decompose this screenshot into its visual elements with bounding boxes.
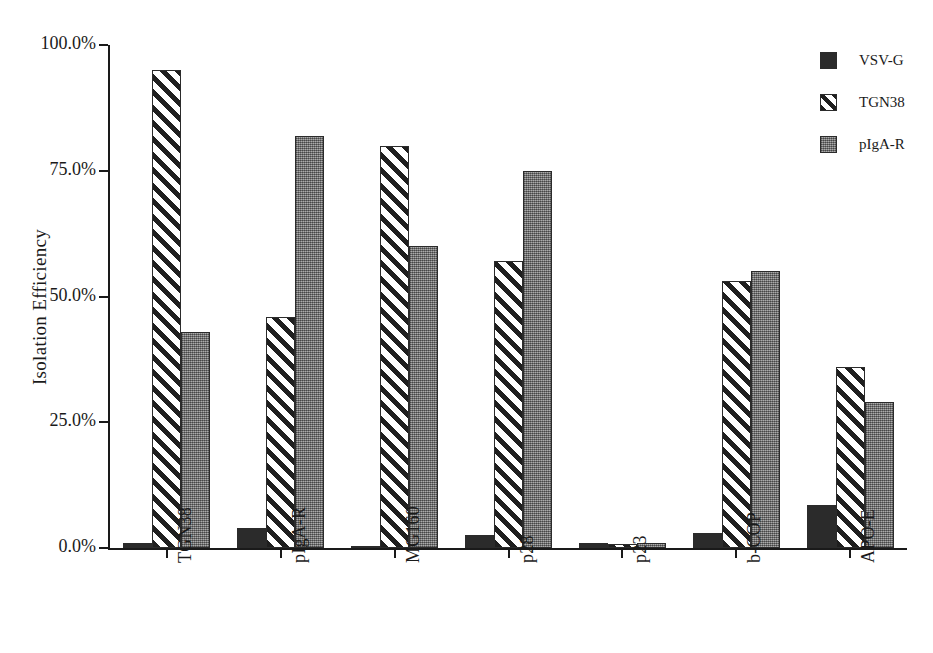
- y-axis-tick-mark: [99, 44, 108, 46]
- x-axis-tick-label: p28: [517, 535, 538, 563]
- legend-label: TGN38: [859, 94, 905, 111]
- bar-pigar[interactable]: [409, 246, 438, 548]
- x-axis-tick-mark: [166, 548, 168, 558]
- bar-vsvg[interactable]: [237, 528, 266, 548]
- bar-chart: Isolation Efficiency 100.0%75.0%50.0%25.…: [0, 0, 933, 653]
- y-axis: 100.0%75.0%50.0%25.0%0.0%: [0, 0, 108, 653]
- y-axis-tick-label: 0.0%: [59, 536, 97, 557]
- bar-group: [224, 45, 338, 548]
- x-axis-tick-label: TGN38: [175, 507, 196, 563]
- x-axis-tick-label: APO-E: [858, 509, 879, 563]
- legend-swatch-pigar-icon: [820, 136, 837, 153]
- legend-item[interactable]: TGN38: [820, 87, 933, 117]
- x-axis-tick-mark: [280, 548, 282, 558]
- legend-label: pIgA-R: [859, 136, 905, 153]
- legend-item[interactable]: pIgA-R: [820, 129, 933, 159]
- x-axis-tick-label: MG160: [403, 506, 424, 563]
- bar-vsvg[interactable]: [351, 546, 380, 549]
- bar-vsvg[interactable]: [465, 535, 494, 548]
- x-axis-tick-label: b-COP: [744, 512, 765, 563]
- x-axis-tick-mark: [508, 548, 510, 558]
- y-axis-tick-mark: [99, 170, 108, 172]
- legend-label: VSV-G: [859, 52, 903, 69]
- bar-vsvg[interactable]: [693, 533, 722, 548]
- legend-swatch-tgn38-icon: [820, 94, 837, 111]
- bar-group: [338, 45, 452, 548]
- bar-group: [565, 45, 679, 548]
- x-axis-tick-mark: [394, 548, 396, 558]
- y-axis-tick-mark: [99, 296, 108, 298]
- bar-pigar[interactable]: [523, 171, 552, 548]
- y-axis-tick-label: 75.0%: [50, 159, 97, 180]
- bar-group: [452, 45, 566, 548]
- x-axis-tick-mark: [621, 548, 623, 558]
- plot-area: TGN38pIgA-RMG160p28p23b-COPAPO-E: [108, 45, 907, 550]
- bar-group: [110, 45, 224, 548]
- x-axis-tick-label: pIgA-R: [289, 507, 310, 563]
- legend-item[interactable]: VSV-G: [820, 45, 933, 75]
- bar-tgn38[interactable]: [152, 70, 181, 548]
- x-axis-tick-label: p23: [630, 535, 651, 563]
- y-axis-tick-label: 100.0%: [41, 33, 97, 54]
- bar-tgn38[interactable]: [722, 281, 751, 548]
- bar-vsvg[interactable]: [807, 505, 836, 548]
- x-axis-tick-mark: [849, 548, 851, 558]
- x-axis-tick-mark: [735, 548, 737, 558]
- chart-legend: VSV-GTGN38pIgA-R: [820, 45, 933, 171]
- y-axis-tick-mark: [99, 421, 108, 423]
- y-axis-tick-label: 50.0%: [50, 285, 97, 306]
- bar-group: [679, 45, 793, 548]
- bar-tgn38[interactable]: [380, 146, 409, 548]
- legend-swatch-vsvg-icon: [820, 52, 837, 69]
- bar-pigar[interactable]: [751, 271, 780, 548]
- bar-tgn38[interactable]: [494, 261, 523, 548]
- y-axis-tick-label: 25.0%: [50, 410, 97, 431]
- bar-vsvg[interactable]: [579, 543, 608, 548]
- bar-vsvg[interactable]: [123, 543, 152, 548]
- bar-pigar[interactable]: [295, 136, 324, 548]
- y-axis-tick-mark: [99, 547, 108, 549]
